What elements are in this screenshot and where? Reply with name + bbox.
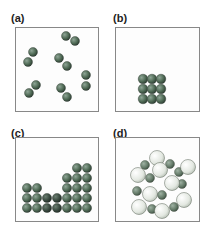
panel-c-layers: [22, 163, 91, 212]
panel-d-lattice: [131, 151, 196, 219]
panel-b-cluster: [138, 74, 166, 104]
diagram-spheres: [0, 0, 211, 234]
panel-a-molecules: [24, 32, 91, 102]
